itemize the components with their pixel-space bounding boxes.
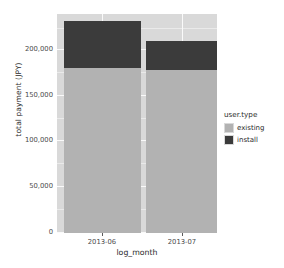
y-tick-label: 150,000 (9, 91, 53, 99)
bar-segment-existing[interactable] (146, 70, 217, 233)
bar-segment-existing[interactable] (64, 68, 141, 233)
bar-segment-install[interactable] (64, 21, 141, 68)
legend-item-install[interactable]: install (224, 134, 282, 145)
x-tick-label: 2013-06 (72, 238, 132, 246)
legend-swatch-icon (224, 135, 234, 145)
legend-item-label: existing (237, 124, 265, 132)
legend-item-label: install (237, 136, 258, 144)
y-tick-label: 50,000 (9, 182, 53, 190)
x-tick-mark (102, 233, 103, 236)
x-tick-label: 2013-07 (152, 238, 212, 246)
legend-title: user.type (224, 110, 282, 119)
chart-root: total payment (JPY) 200,000 150,000 100,… (0, 0, 284, 268)
y-tick-label: 200,000 (9, 45, 53, 53)
legend-swatch-icon (224, 123, 234, 133)
legend-item-existing[interactable]: existing (224, 122, 282, 133)
y-tick-label: 100,000 (9, 136, 53, 144)
legend: user.type existing install (224, 110, 282, 146)
bar-segment-install[interactable] (146, 41, 217, 70)
x-axis-title: log_month (57, 248, 217, 257)
x-tick-mark (182, 233, 183, 236)
y-tick-label: 0 (9, 228, 53, 236)
y-axis-ticks: 200,000 150,000 100,000 50,000 0 (6, 0, 53, 268)
plot-panel (57, 14, 217, 233)
